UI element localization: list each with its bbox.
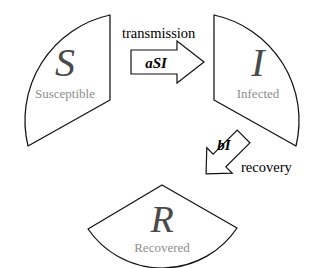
- transmission-rate-label: aSI: [145, 55, 168, 71]
- diagram-canvas: S Susceptible I Infected R Recovered aSI…: [0, 0, 321, 268]
- recovery-rate-label: bI: [217, 137, 232, 153]
- infected-letter: I: [250, 40, 266, 85]
- recovered-label: Recovered: [134, 240, 190, 255]
- compartment-infected[interactable]: I Infected: [214, 15, 299, 146]
- flow-transmission[interactable]: aSI transmission: [122, 25, 204, 83]
- transmission-arrow-shape: [131, 41, 204, 83]
- recovery-arrow-shape: [193, 124, 256, 187]
- susceptible-label: Susceptible: [35, 86, 95, 101]
- sir-model-diagram: S Susceptible I Infected R Recovered aSI…: [0, 0, 321, 268]
- recovery-flow-label: recovery: [241, 159, 292, 175]
- compartment-recovered[interactable]: R Recovered: [88, 185, 237, 268]
- compartment-susceptible[interactable]: S Susceptible: [25, 15, 110, 146]
- recovered-letter: R: [149, 198, 173, 240]
- susceptible-letter: S: [55, 40, 75, 85]
- infected-label: Infected: [237, 86, 280, 101]
- transmission-flow-label: transmission: [122, 25, 196, 41]
